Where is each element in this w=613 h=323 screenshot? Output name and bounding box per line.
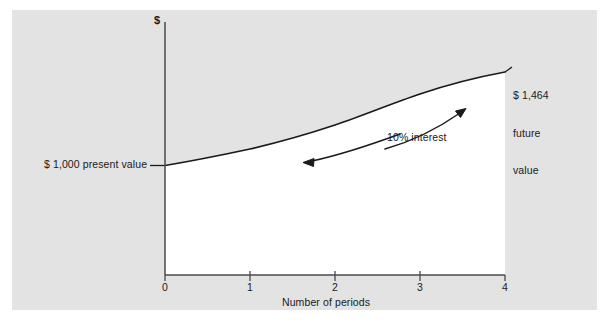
y-axis-title: $: [154, 14, 160, 27]
future-value-leader-line: [505, 67, 512, 72]
future-value-word-future: future: [513, 127, 549, 140]
x-tick-label-0: 0: [155, 281, 175, 293]
future-value-word-value: value: [513, 164, 549, 177]
future-value-amount: $ 1,464: [513, 89, 549, 102]
x-tick-label-3: 3: [410, 281, 430, 293]
present-value-label: $ 1,000 present value: [44, 158, 147, 171]
x-tick-label-1: 1: [240, 281, 260, 293]
x-tick-label-2: 2: [325, 281, 345, 293]
future-value-label: $ 1,464 future value: [513, 64, 549, 202]
under-curve-fill: [165, 72, 505, 275]
chart-figure: $ $ 1,000 present value $ 1,464 future v…: [0, 0, 613, 323]
x-tick-label-4: 4: [495, 281, 515, 293]
interest-rate-label: 10% interest: [387, 131, 447, 144]
x-axis-title: Number of periods: [282, 296, 370, 309]
